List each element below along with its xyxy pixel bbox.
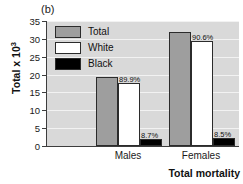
bar-males-black: [140, 139, 162, 146]
y-axis-tick: [42, 21, 46, 22]
x-axis-title: Total mortality: [168, 167, 240, 179]
panel-label: (b): [41, 3, 54, 15]
y-axis-title-text: Total x 10: [10, 46, 22, 94]
y-axis-tick: [42, 39, 46, 40]
y-axis-tick-label: 30: [29, 33, 40, 44]
bar-females-white: [191, 41, 213, 146]
legend-swatch-white: [55, 42, 81, 54]
y-axis-tick: [42, 92, 46, 93]
legend-label-total: Total: [88, 26, 109, 38]
bar-value-label: 8.5%: [214, 130, 231, 139]
bar-value-label: 8.7%: [141, 131, 158, 140]
y-axis-title-exponent: 3: [9, 42, 18, 46]
bar-males-total: [96, 77, 118, 146]
x-axis-tick-label: Females: [182, 150, 220, 161]
bar-value-label: 89.9%: [119, 75, 140, 84]
plot-area: 05101520253035 Total White Black 89.9%8.…: [46, 21, 239, 147]
y-axis-title: Total x 103: [10, 8, 22, 128]
bar-females-total: [169, 32, 191, 146]
legend: Total White Black: [55, 25, 114, 70]
legend-label-white: White: [88, 42, 114, 54]
legend-label-black: Black: [88, 58, 112, 70]
y-axis-tick: [42, 57, 46, 58]
y-axis-tick-label: 15: [29, 87, 40, 98]
y-axis-tick-label: 5: [35, 123, 40, 134]
y-axis-tick: [42, 75, 46, 76]
bar-value-label: 90.6%: [192, 33, 213, 42]
legend-item-black: Black: [55, 57, 114, 70]
y-axis-tick: [42, 128, 46, 129]
y-axis-tick-label: 35: [29, 16, 40, 27]
y-axis-tick: [42, 146, 46, 147]
legend-item-total: Total: [55, 25, 114, 38]
bar-females-black: [213, 138, 235, 146]
y-axis-tick-label: 0: [35, 141, 40, 152]
x-axis-tick-label: Males: [115, 150, 142, 161]
legend-swatch-total: [55, 26, 81, 38]
figure-panel-b: (b) Total x 103 05101520253035 Total Whi…: [0, 0, 243, 184]
legend-swatch-black: [55, 58, 81, 70]
y-axis-tick: [42, 110, 46, 111]
y-axis-tick-label: 20: [29, 69, 40, 80]
y-axis-tick-label: 10: [29, 105, 40, 116]
gridline: [47, 21, 239, 22]
y-axis-tick-label: 25: [29, 51, 40, 62]
bar-males-white: [118, 83, 140, 146]
legend-item-white: White: [55, 41, 114, 54]
